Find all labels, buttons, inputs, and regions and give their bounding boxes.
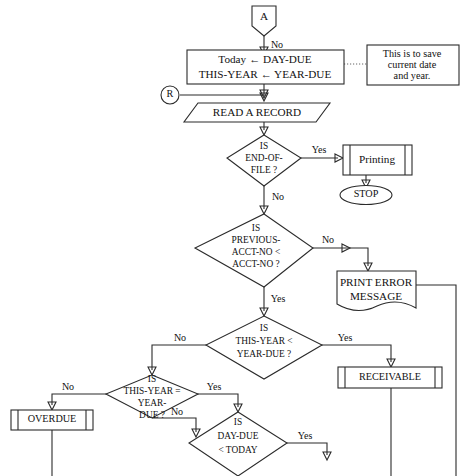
overdue-label: OVERDUE xyxy=(28,413,77,424)
decision-acct-line4: ACCT-NO ? xyxy=(232,259,279,269)
decision-eof-line1: IS xyxy=(260,141,268,151)
annotation-line2: current date xyxy=(388,59,437,70)
decision-acct-line3: ACCT-NO < xyxy=(232,247,280,257)
node-decision-year-eq[interactable]: IS THIS-YEAR = YEAR- DUE ? xyxy=(106,374,198,420)
decision-year-lt-line1: IS xyxy=(260,323,268,333)
document-error-line1: PRINT ERROR xyxy=(340,276,413,288)
connector-a-label: A xyxy=(260,10,268,22)
node-decision-day-due[interactable]: IS DAY-DUE < TODAY xyxy=(189,412,287,476)
document-error-line2: MESSAGE xyxy=(350,290,402,302)
decision-acct-line2: PREVIOUS- xyxy=(232,235,281,245)
decision-year-eq-line1: IS xyxy=(148,374,156,384)
node-annotation-save: This is to save current date and year. xyxy=(367,45,459,85)
node-predefined-overdue[interactable]: OVERDUE xyxy=(11,410,93,430)
edge-label-eof-yes: Yes xyxy=(312,144,327,155)
io-read-label: READ A RECORD xyxy=(213,106,301,118)
edge-label-eof-no: No xyxy=(272,191,284,202)
edge-label-acct-yes: Yes xyxy=(271,293,286,304)
decision-year-eq-line2: THIS-YEAR = xyxy=(123,386,180,396)
node-terminal-stop[interactable]: STOP xyxy=(340,186,392,205)
decision-year-lt-line3: YEAR-DUE ? xyxy=(237,349,291,359)
decision-day-due-line3: < TODAY xyxy=(218,445,257,455)
process-save-line2: THIS-YEAR ← YEAR-DUE xyxy=(199,68,332,80)
decision-year-eq-line3: YEAR- xyxy=(138,398,167,408)
decision-day-due-line1: IS xyxy=(234,417,242,427)
node-connector-a[interactable]: A xyxy=(252,6,276,36)
node-predefined-printing[interactable]: Printing xyxy=(343,145,412,175)
node-predefined-receivable[interactable]: RECEIVABLE xyxy=(338,367,442,388)
node-io-read[interactable]: READ A RECORD xyxy=(184,103,330,122)
edge-label-year-eq-yes: Yes xyxy=(207,381,222,392)
edge-label-year-lt-yes: Yes xyxy=(338,332,353,343)
node-decision-eof[interactable]: IS END-OF- FILE ? xyxy=(227,135,301,186)
edge-label-year-eq-no: No xyxy=(171,406,183,417)
annotation-line1: This is to save xyxy=(383,48,442,59)
edge-label-acct-no: No xyxy=(322,234,334,245)
edge-label-year-lt-no: No xyxy=(174,332,186,343)
decision-acct-line1: IS xyxy=(252,223,260,233)
edge-label-overdue-no: No xyxy=(62,381,74,392)
node-decision-year-lt[interactable]: IS THIS-YEAR < YEAR-DUE ? xyxy=(206,316,322,379)
connector-r-label: R xyxy=(167,88,174,99)
decision-eof-line2: END-OF- xyxy=(245,153,283,163)
decision-day-due-line2: DAY-DUE xyxy=(218,431,259,441)
receivable-label: RECEIVABLE xyxy=(359,371,421,382)
node-document-error[interactable]: PRINT ERROR MESSAGE xyxy=(337,271,416,311)
node-process-save[interactable]: Today ← DAY-DUE THIS-YEAR ← YEAR-DUE xyxy=(187,50,344,84)
decision-year-eq-line4: DUE ? xyxy=(139,410,165,420)
edge-label-a-no: No xyxy=(271,39,283,50)
decision-eof-line3: FILE ? xyxy=(251,165,277,175)
decision-year-lt-line2: THIS-YEAR < xyxy=(235,336,292,346)
flowchart-canvas: A No Today ← DAY-DUE THIS-YEAR ← YEAR-DU… xyxy=(0,0,469,476)
printing-label: Printing xyxy=(359,153,395,165)
node-decision-acct[interactable]: IS PREVIOUS- ACCT-NO < ACCT-NO ? xyxy=(195,214,313,287)
annotation-line3: and year. xyxy=(394,70,431,81)
edge-label-day-due-yes: Yes xyxy=(298,430,313,441)
node-connector-r[interactable]: R xyxy=(161,86,179,104)
stop-label: STOP xyxy=(354,188,379,199)
process-save-line1: Today ← DAY-DUE xyxy=(218,53,311,65)
